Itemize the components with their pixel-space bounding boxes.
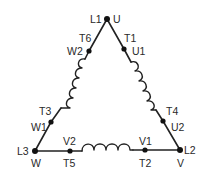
node-l1-u — [104, 16, 110, 22]
node-t3-w1 — [48, 119, 53, 124]
label-u: U — [113, 13, 121, 25]
delta-winding-diagram: L1 U T6 W2 T1 U1 T3 W1 T4 U2 L3 W L2 V V… — [0, 0, 209, 178]
label-t5: T5 — [63, 157, 75, 169]
label-l2: L2 — [184, 144, 196, 156]
node-v2-t5 — [67, 148, 72, 153]
label-l3: L3 — [17, 145, 29, 157]
node-v1-t2 — [142, 147, 147, 152]
label-t1: T1 — [124, 32, 136, 44]
label-v2: V2 — [63, 135, 76, 147]
label-l1: L1 — [90, 13, 102, 25]
bottom-coil-icon — [82, 144, 133, 151]
right-winding — [107, 19, 180, 150]
right-coil-icon — [131, 62, 156, 110]
label-v1: V1 — [139, 135, 152, 147]
label-t2: T2 — [139, 157, 151, 169]
label-t6: T6 — [79, 32, 91, 44]
label-t4: T4 — [166, 105, 178, 117]
left-coil-icon — [61, 59, 85, 108]
node-l3-w — [32, 148, 38, 154]
diagram-canvas: L1 U T6 W2 T1 U1 T3 W1 T4 U2 L3 W L2 V V… — [0, 0, 209, 178]
label-w1: W1 — [31, 121, 47, 133]
label-w2: W2 — [67, 45, 83, 57]
node-l2-v — [177, 147, 183, 153]
label-t3: T3 — [39, 105, 51, 117]
label-u1: U1 — [132, 45, 146, 57]
node-t6-w2 — [86, 48, 91, 53]
label-w: W — [31, 157, 41, 169]
bottom-winding — [35, 144, 180, 151]
node-t4-u2 — [160, 118, 165, 123]
label-v: V — [177, 157, 184, 169]
label-u2: U2 — [171, 121, 185, 133]
node-t1-u1 — [121, 46, 126, 51]
